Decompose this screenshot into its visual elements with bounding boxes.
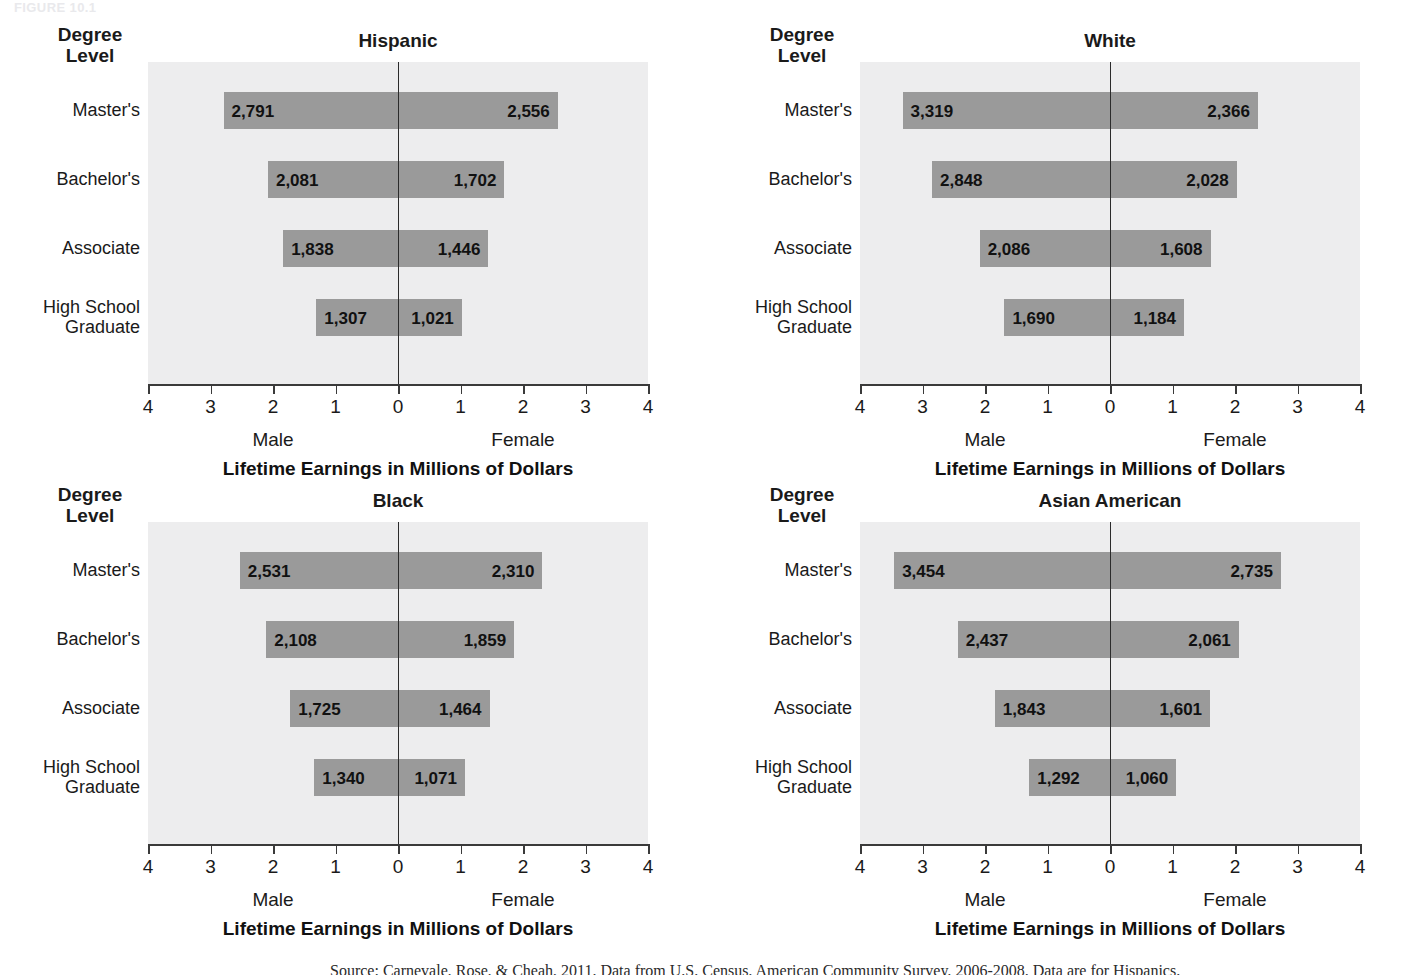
x-axis-tick bbox=[1360, 384, 1362, 394]
axis-label-female: Female bbox=[1203, 429, 1266, 451]
x-axis-tick bbox=[586, 384, 588, 394]
row-label-line: High School bbox=[2, 297, 140, 318]
x-axis-tick-label: 2 bbox=[518, 396, 529, 418]
x-axis-tick bbox=[461, 384, 463, 394]
row-label-associate: Associate bbox=[714, 698, 852, 719]
bar-row: 1,3071,021 bbox=[316, 299, 462, 336]
row-label-line: Master's bbox=[714, 560, 852, 581]
x-axis-tick-label: 3 bbox=[917, 396, 928, 418]
x-axis-tick bbox=[1048, 844, 1050, 854]
bar-value-male: 1,843 bbox=[1003, 700, 1046, 717]
x-axis-tick-label: 2 bbox=[518, 856, 529, 878]
x-axis-tick bbox=[985, 384, 987, 394]
row-label-column: Master'sBachelor'sAssociateHigh SchoolGr… bbox=[712, 522, 852, 844]
bar-value-female: 1,071 bbox=[414, 769, 457, 786]
bar-value-female: 1,446 bbox=[438, 240, 481, 257]
x-axis-tick bbox=[1298, 384, 1300, 394]
bar-value-male: 2,848 bbox=[940, 171, 983, 188]
row-label-line: Associate bbox=[2, 238, 140, 259]
bar-value-female: 1,601 bbox=[1160, 700, 1203, 717]
source-note: Source: Carnevale, Rose, & Cheah, 2011. … bbox=[330, 962, 1420, 975]
zero-axis-line bbox=[398, 62, 399, 384]
bar-value-male: 2,086 bbox=[988, 240, 1031, 257]
x-axis-tick-label: 4 bbox=[143, 856, 154, 878]
row-label-bachelor-s: Bachelor's bbox=[714, 169, 852, 190]
axis-label-female: Female bbox=[491, 429, 554, 451]
row-label-line: Master's bbox=[2, 100, 140, 121]
row-label-line: High School bbox=[2, 757, 140, 778]
x-axis-tick bbox=[860, 844, 862, 854]
x-axis-tick-label: 3 bbox=[580, 856, 591, 878]
x-axis-tick-label: 2 bbox=[268, 856, 279, 878]
bar-value-female: 1,464 bbox=[439, 700, 482, 717]
plot-area: 3,3192,3662,8482,0282,0861,6081,6901,184 bbox=[860, 62, 1360, 384]
x-axis-tick bbox=[336, 844, 338, 854]
x-axis-tick-label: 4 bbox=[855, 856, 866, 878]
axis-label-male: Male bbox=[964, 889, 1005, 911]
x-axis-tick-label: 4 bbox=[1355, 396, 1366, 418]
plot-area: 2,7912,5562,0811,7021,8381,4461,3071,021 bbox=[148, 62, 648, 384]
x-axis-tick bbox=[1048, 384, 1050, 394]
bar-value-male: 2,437 bbox=[966, 631, 1009, 648]
degree-level-heading-line: Degree bbox=[748, 484, 856, 505]
bar-value-male: 2,531 bbox=[248, 562, 291, 579]
x-axis-tick bbox=[523, 384, 525, 394]
x-axis-tick-label: 3 bbox=[205, 396, 216, 418]
axis-label-female: Female bbox=[491, 889, 554, 911]
row-label-high-school-graduate: High SchoolGraduate bbox=[714, 297, 852, 338]
axis-label-male: Male bbox=[252, 889, 293, 911]
bar-value-female: 1,184 bbox=[1133, 309, 1176, 326]
chart-panel-white: DegreeLevelWhiteMaster'sBachelor'sAssoci… bbox=[712, 18, 1424, 480]
x-axis-tick bbox=[985, 844, 987, 854]
x-axis-tick bbox=[148, 844, 150, 854]
x-axis-tick bbox=[1110, 844, 1112, 854]
chart-panel-asian-american: DegreeLevelAsian AmericanMaster'sBachelo… bbox=[712, 478, 1424, 940]
bar-value-female: 2,556 bbox=[507, 102, 550, 119]
bar-value-male: 1,725 bbox=[298, 700, 341, 717]
row-label-line: Graduate bbox=[714, 777, 852, 798]
bar-row: 2,5312,310 bbox=[240, 552, 543, 589]
x-axis-tick-label: 3 bbox=[917, 856, 928, 878]
row-label-line: Master's bbox=[714, 100, 852, 121]
axis-label-male: Male bbox=[252, 429, 293, 451]
row-label-column: Master'sBachelor'sAssociateHigh SchoolGr… bbox=[0, 522, 140, 844]
x-axis-tick bbox=[398, 384, 400, 394]
x-axis-tick-label: 1 bbox=[455, 396, 466, 418]
row-label-high-school-graduate: High SchoolGraduate bbox=[2, 297, 140, 338]
row-label-high-school-graduate: High SchoolGraduate bbox=[2, 757, 140, 798]
x-axis-tick-label: 4 bbox=[855, 396, 866, 418]
row-label-master-s: Master's bbox=[2, 100, 140, 121]
bar-value-female: 2,735 bbox=[1230, 562, 1273, 579]
bar-value-female: 1,021 bbox=[411, 309, 454, 326]
x-axis-tick-label: 4 bbox=[1355, 856, 1366, 878]
x-axis-tick-label: 1 bbox=[1042, 396, 1053, 418]
x-axis-tick-label: 1 bbox=[330, 396, 341, 418]
x-axis-tick bbox=[1235, 844, 1237, 854]
row-label-bachelor-s: Bachelor's bbox=[714, 629, 852, 650]
bar-value-female: 2,310 bbox=[492, 562, 535, 579]
row-label-master-s: Master's bbox=[714, 100, 852, 121]
bar-value-male: 1,838 bbox=[291, 240, 334, 257]
degree-level-heading-line: Degree bbox=[36, 24, 144, 45]
x-axis-tick bbox=[860, 384, 862, 394]
bar-row: 1,6901,184 bbox=[1004, 299, 1184, 336]
x-axis-tick-label: 1 bbox=[330, 856, 341, 878]
panel-title: White bbox=[1084, 30, 1136, 52]
x-axis-tick bbox=[1298, 844, 1300, 854]
row-label-associate: Associate bbox=[2, 698, 140, 719]
panel-title: Hispanic bbox=[358, 30, 437, 52]
x-axis-tick bbox=[523, 844, 525, 854]
bar-value-male: 1,340 bbox=[322, 769, 365, 786]
panel-title: Black bbox=[373, 490, 424, 512]
x-axis-tick bbox=[923, 844, 925, 854]
bar-value-female: 1,702 bbox=[454, 171, 497, 188]
bar-row: 2,7912,556 bbox=[224, 92, 558, 129]
row-label-bachelor-s: Bachelor's bbox=[2, 629, 140, 650]
x-axis-tick-label: 0 bbox=[393, 856, 404, 878]
bar-row: 2,8482,028 bbox=[932, 161, 1237, 198]
x-axis-title: Lifetime Earnings in Millions of Dollars bbox=[223, 918, 574, 940]
x-axis-tick bbox=[1173, 384, 1175, 394]
plot-area: 2,5312,3102,1081,8591,7251,4641,3401,071 bbox=[148, 522, 648, 844]
chart-panel-hispanic: DegreeLevelHispanicMaster'sBachelor'sAss… bbox=[0, 18, 712, 480]
x-axis-tick bbox=[1235, 384, 1237, 394]
